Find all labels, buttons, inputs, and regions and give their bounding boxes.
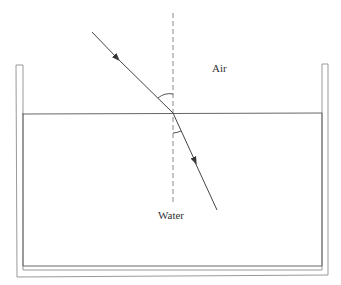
- air-label: Air: [212, 62, 227, 74]
- angle-of-incidence-arc: [158, 94, 173, 98]
- incident-ray-upper: [92, 32, 117, 58]
- water-surface: [22, 113, 322, 114]
- angle-of-refraction-arc: [173, 131, 181, 133]
- refracted-ray-upper: [173, 113, 195, 161]
- refraction-diagram: Air Water: [0, 0, 341, 285]
- tank-outer-wall: [16, 64, 328, 277]
- refracted-ray-lower: [194, 160, 217, 210]
- water-label: Water: [158, 209, 184, 221]
- incident-ray-lower: [116, 57, 173, 113]
